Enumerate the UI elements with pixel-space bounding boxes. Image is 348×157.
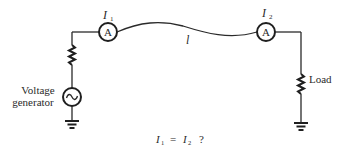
equation-operator: = <box>170 133 176 145</box>
source-label-line2: generator <box>12 96 54 108</box>
ammeter-2-current-sub: 2 <box>269 13 273 21</box>
load-label: Load <box>309 73 332 85</box>
ammeter-1-current-label: I <box>102 8 108 22</box>
equation-lhs-sub: 1 <box>161 139 164 146</box>
equation: I 1 = I 2 ? <box>155 133 204 146</box>
load-branch: Load <box>275 32 332 130</box>
ammeter-1: A I 1 <box>99 8 117 41</box>
source-resistor-icon <box>69 45 75 65</box>
line-length-label: l <box>186 33 190 47</box>
load-resistor-icon <box>298 74 304 94</box>
equation-rhs-sub: 2 <box>188 139 191 146</box>
ammeter-1-symbol: A <box>104 26 112 38</box>
ground-icon-left <box>65 121 79 128</box>
ammeter-2-symbol: A <box>262 26 270 38</box>
circuit-diagram: Voltage generator A I 1 l A I 2 Load I 1… <box>0 0 348 157</box>
ammeter-2: A I 2 <box>257 6 275 41</box>
source-label-line1: Voltage <box>21 84 55 96</box>
equation-question: ? <box>199 133 204 145</box>
source-branch: Voltage generator <box>12 32 99 128</box>
sine-wave-icon <box>67 94 78 99</box>
ground-icon-right <box>294 123 308 130</box>
ammeter-2-current-label: I <box>261 6 267 20</box>
ammeter-1-current-sub: 1 <box>110 15 114 23</box>
